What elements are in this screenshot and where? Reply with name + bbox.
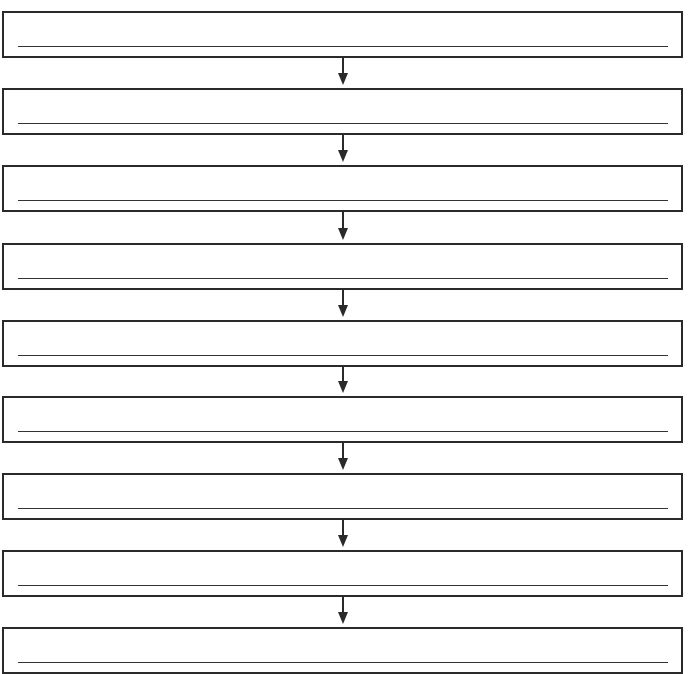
answer-line [18,662,668,663]
arrow-down-icon [336,58,350,86]
flow-box-7[interactable] [2,473,683,520]
answer-line [18,585,668,586]
flow-box-9[interactable] [2,627,683,674]
flow-box-8[interactable] [2,550,683,597]
arrow-down-icon [336,367,350,394]
flow-box-5[interactable] [2,320,683,367]
flow-box-1[interactable] [2,11,683,58]
flow-box-2[interactable] [2,88,683,135]
answer-line [18,278,668,279]
flow-box-6[interactable] [2,396,683,443]
arrow-down-icon [336,212,350,241]
arrow-down-icon [336,290,350,318]
answer-line [18,46,668,47]
arrow-down-icon [336,135,350,163]
answer-line [18,200,668,201]
arrow-down-icon [336,597,350,625]
flow-box-4[interactable] [2,243,683,290]
answer-line [18,355,668,356]
flow-box-3[interactable] [2,165,683,212]
arrow-down-icon [336,443,350,471]
answer-line [18,123,668,124]
answer-line [18,431,668,432]
answer-line [18,508,668,509]
arrow-down-icon [336,520,350,548]
